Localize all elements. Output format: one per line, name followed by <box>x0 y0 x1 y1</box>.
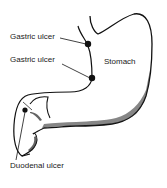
gastric-ulcer-1-dot <box>85 41 91 47</box>
stomach-label: Stomach <box>104 58 136 66</box>
duodenal-ulcer-leader <box>16 112 25 160</box>
duodenal-ulcer-label: Duodenal ulcer <box>10 162 64 170</box>
gastric-ulcer-label-2: Gastric ulcer <box>10 56 55 64</box>
duodenal-ulcer-dot <box>22 107 27 112</box>
gastric-ulcer-2-leader <box>62 64 90 78</box>
gastric-ulcer-1-leader <box>60 38 86 44</box>
stomach-diagram <box>0 0 167 188</box>
gastric-ulcer-2-dot <box>89 75 95 81</box>
gastric-ulcer-label-1: Gastric ulcer <box>10 33 55 41</box>
lesser-curvature-outline <box>14 26 92 156</box>
duodenum-shading <box>28 112 42 152</box>
greater-curvature-shading <box>42 70 150 128</box>
